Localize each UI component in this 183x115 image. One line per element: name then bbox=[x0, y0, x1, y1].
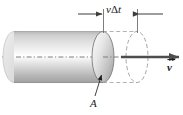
displacement-delta-symbol: Δ bbox=[111, 3, 118, 15]
area-label: A bbox=[90, 98, 97, 109]
velocity-symbol: v bbox=[167, 61, 172, 73]
displacement-time-symbol: t bbox=[118, 3, 121, 15]
fluid-volume-cylinder-flux-diagram: vΔt A v bbox=[0, 0, 183, 115]
displacement-label: vΔt bbox=[106, 4, 121, 15]
velocity-label: v bbox=[167, 62, 172, 73]
vector-arrow-icon bbox=[167, 57, 176, 62]
